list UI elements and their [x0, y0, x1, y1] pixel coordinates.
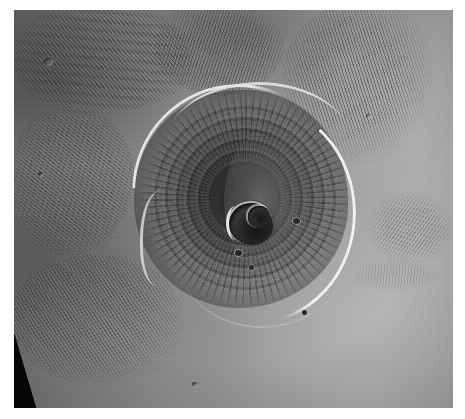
- mars-orbital-photograph: [14, 10, 453, 408]
- vignette-overlay: [14, 10, 453, 408]
- image-page: [0, 0, 465, 419]
